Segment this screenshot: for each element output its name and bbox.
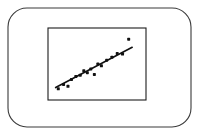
scatter-point <box>121 53 124 56</box>
scatter-point <box>57 87 60 90</box>
scatter-point <box>100 64 103 67</box>
scatter-point <box>66 85 69 88</box>
scatter-point <box>70 78 73 81</box>
scatter-point <box>96 63 99 66</box>
scatter-point <box>105 59 108 62</box>
scatter-point <box>93 73 96 76</box>
scatter-point <box>116 52 119 55</box>
scatter-point <box>89 67 92 70</box>
scatter-point <box>86 71 89 74</box>
scatter-point <box>62 83 65 86</box>
scatter-point <box>82 69 85 72</box>
figure-root <box>0 0 199 135</box>
scatter-point <box>79 74 82 77</box>
scatter-point <box>127 38 130 41</box>
scatter-plot-figure <box>0 0 199 135</box>
scatter-point <box>110 56 113 59</box>
scatter-point <box>74 75 77 78</box>
